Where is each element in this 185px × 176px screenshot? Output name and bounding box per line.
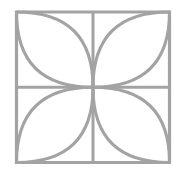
geometric-tile-figure [0, 0, 185, 176]
